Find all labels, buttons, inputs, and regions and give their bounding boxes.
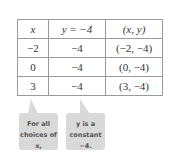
callout-text: choices of x,: [19, 130, 58, 152]
callout-x: For all choices of x,: [19, 113, 58, 150]
callout-y: y is a constant −4.: [66, 113, 105, 150]
callout-text: y is a: [66, 119, 105, 130]
callout-text: For all: [19, 119, 58, 130]
callout-text: constant −4.: [66, 130, 105, 152]
